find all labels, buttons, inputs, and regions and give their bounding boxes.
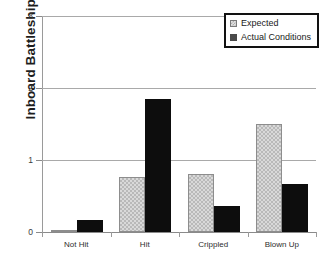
bar	[282, 184, 308, 232]
bar-chart: Inboard Battleships 0123 Not HitHitCripp…	[0, 0, 330, 259]
legend-item-actual: Actual Conditions	[230, 32, 311, 42]
bar	[188, 174, 214, 232]
bar-group	[180, 16, 248, 232]
x-axis-ticks	[42, 232, 316, 238]
legend-item-expected: Expected	[230, 18, 311, 28]
bar-groups	[43, 16, 316, 232]
x-axis-tick	[179, 232, 180, 237]
x-axis-label: Not Hit	[42, 240, 111, 249]
y-axis-tick-label: 0	[28, 227, 33, 237]
x-axis-tick	[248, 232, 249, 237]
y-axis-title: Inboard Battleships	[23, 0, 38, 146]
legend-label-expected: Expected	[241, 18, 279, 28]
x-axis-labels: Not HitHitCrippledBlown Up	[42, 240, 316, 249]
bar	[77, 220, 103, 232]
x-axis-label: Hit	[111, 240, 180, 249]
x-axis-label: Crippled	[179, 240, 248, 249]
y-axis-tick	[36, 88, 42, 89]
x-axis-label: Blown Up	[248, 240, 317, 249]
bar	[119, 177, 145, 232]
bar	[214, 206, 240, 232]
legend: Expected Actual Conditions	[224, 13, 319, 48]
legend-swatch-expected-icon	[230, 20, 237, 27]
bar	[145, 99, 171, 232]
bar	[256, 124, 282, 232]
y-axis-tick-label: 3	[28, 11, 33, 21]
cut-off-title	[18, 0, 218, 6]
plot-area: 0123	[42, 16, 316, 232]
bar-group	[111, 16, 179, 232]
y-axis-tick	[36, 160, 42, 161]
y-axis-tick-label: 1	[28, 155, 33, 165]
bar-group	[248, 16, 316, 232]
legend-label-actual: Actual Conditions	[241, 32, 311, 42]
bar-group	[43, 16, 111, 232]
legend-swatch-actual-icon	[230, 34, 237, 41]
x-axis-tick	[111, 232, 112, 237]
y-axis-tick	[36, 16, 42, 17]
x-axis-tick	[316, 232, 317, 237]
y-axis-tick-label: 2	[28, 83, 33, 93]
x-axis-tick	[42, 232, 43, 237]
